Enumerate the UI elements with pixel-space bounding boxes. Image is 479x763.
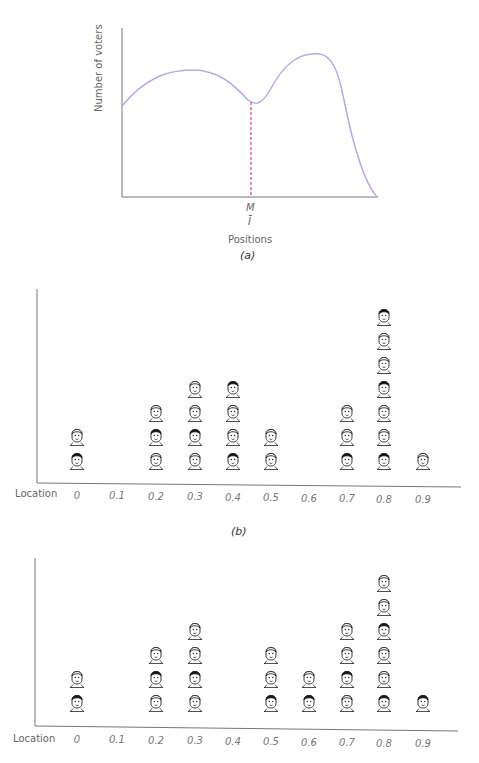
x-tick-label: 0 <box>74 734 80 745</box>
face-icon <box>148 644 164 664</box>
face-icon <box>225 450 241 470</box>
y-axis-label: Number of voters <box>93 24 104 112</box>
face-icon <box>376 450 392 470</box>
face-icon <box>339 402 355 422</box>
face-icon <box>376 306 392 326</box>
face-icon <box>376 354 392 374</box>
face-icon <box>339 450 355 470</box>
x-axis <box>37 483 461 487</box>
x-tick-label: 0 <box>74 490 80 501</box>
face-icon <box>187 620 203 640</box>
face-icon <box>376 402 392 422</box>
x-axis-label: Positions <box>228 234 272 245</box>
face-icon <box>225 426 241 446</box>
x-tick-label: 0.1 <box>109 490 125 501</box>
face-icon <box>339 644 355 664</box>
face-icon <box>376 596 392 616</box>
x-tick-label: 0.4 <box>225 492 241 503</box>
x-axis <box>35 726 458 731</box>
face-icon <box>69 450 85 470</box>
face-icon <box>339 692 355 712</box>
face-icon <box>339 668 355 688</box>
x-tick-label: 0.7 <box>339 493 355 504</box>
panel-c-axes <box>35 558 458 731</box>
face-icon <box>263 692 279 712</box>
face-icon <box>376 692 392 712</box>
x-tick-label: 0.8 <box>376 494 392 505</box>
face-icon <box>301 692 317 712</box>
face-icon <box>187 692 203 712</box>
face-icon <box>376 572 392 592</box>
face-icon <box>415 450 431 470</box>
face-icon <box>187 402 203 422</box>
face-icon <box>148 692 164 712</box>
voter-distribution-curve <box>122 54 377 197</box>
face-icon <box>376 330 392 350</box>
location-axis-label: Location <box>15 488 57 499</box>
face-icon <box>376 668 392 688</box>
x-tick-label: 0.6 <box>301 493 317 504</box>
face-icon <box>225 378 241 398</box>
face-icon <box>263 426 279 446</box>
face-icon <box>69 668 85 688</box>
face-icon <box>187 378 203 398</box>
face-icon <box>263 644 279 664</box>
face-icon <box>263 668 279 688</box>
x-tick-label: 0.1 <box>109 734 125 745</box>
face-icon <box>148 450 164 470</box>
x-tick-label: 0.7 <box>339 737 355 748</box>
x-tick-label: 0.9 <box>415 738 431 749</box>
face-icon <box>69 426 85 446</box>
panel-a-caption: (a) <box>240 249 255 262</box>
x-tick-label: 0.2 <box>148 735 164 746</box>
panel-b-caption: (b) <box>231 525 247 538</box>
face-icon <box>376 644 392 664</box>
face-icon <box>225 402 241 422</box>
face-icon <box>339 620 355 640</box>
face-icon <box>415 692 431 712</box>
median-label: M <box>246 202 255 213</box>
face-icon <box>187 450 203 470</box>
x-tick-label: 0.9 <box>415 494 431 505</box>
x-tick-label: 0.6 <box>301 737 317 748</box>
face-icon <box>187 426 203 446</box>
panel-a-plot <box>122 28 378 197</box>
face-icon <box>301 668 317 688</box>
face-icon <box>376 378 392 398</box>
x-tick-label: 0.5 <box>263 736 279 747</box>
face-icon <box>339 426 355 446</box>
x-tick-label: 0.4 <box>225 736 241 747</box>
location-axis-label: Location <box>13 733 55 744</box>
x-tick-label: 0.3 <box>187 491 203 502</box>
face-icon <box>69 692 85 712</box>
face-icon <box>148 668 164 688</box>
x-tick-label: 0.5 <box>263 492 279 503</box>
median-sublabel: Ī <box>248 216 251 227</box>
face-icon <box>376 426 392 446</box>
face-icon <box>148 426 164 446</box>
x-tick-label: 0.3 <box>187 735 203 746</box>
face-icon <box>148 402 164 422</box>
panel-b-axes <box>37 289 461 487</box>
x-tick-label: 0.8 <box>376 738 392 749</box>
x-tick-label: 0.2 <box>148 491 164 502</box>
face-icon <box>376 620 392 640</box>
face-icon <box>187 668 203 688</box>
face-icon <box>187 644 203 664</box>
face-icon <box>263 450 279 470</box>
